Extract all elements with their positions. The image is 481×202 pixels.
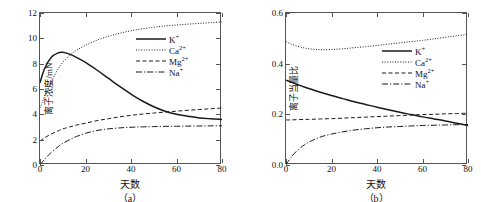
y-tick-mark-right [462,64,466,65]
legend-label-charge: 2+ [425,56,432,63]
x-tick-label: 80 [464,165,473,174]
x-tick-mark [86,159,87,163]
x-tick-mark [222,159,223,163]
x-tick-mark [423,159,424,163]
legend-line-swatch [136,35,166,43]
x-tick-mark [177,159,178,163]
y-tick-label: 4 [33,110,38,119]
x-tick-mark [377,159,378,163]
legend-line-swatch [382,58,412,66]
figure-container: 024681012020406080 K+Ca2+Mg2+Na+ 离子浓度/mN… [0,0,481,202]
chart-panel-a: 024681012020406080 K+Ca2+Mg2+Na+ 离子浓度/mN… [0,0,240,202]
legend-label: Na+ [169,64,183,79]
legend-label-charge: + [176,33,180,40]
legend-line-swatch [382,47,412,55]
plot-lines-a [40,13,222,165]
x-tick-mark-top [423,13,424,17]
y-tick-label: 0.4 [272,59,283,68]
y-tick-mark-right [216,38,220,39]
legend-label-charge: 2+ [428,67,435,74]
y-tick-label: 0 [33,161,38,170]
y-tick-mark-right [462,13,466,14]
x-tick-mark-top [40,13,41,17]
y-tick-mark [40,38,44,39]
series-line-ca2 [40,22,222,108]
legend-a: K+Ca2+Mg2+Na+ [136,33,188,77]
legend-line-swatch [136,68,166,76]
x-tick-mark-top [286,13,287,17]
y-tick-mark [40,140,44,141]
series-line-k [40,52,222,119]
legend-b: K+Ca2+Mg2+Na+ [382,45,434,89]
x-tick-label: 40 [373,165,382,174]
y-tick-label: 0.0 [272,161,283,170]
y-axis-title-b: 离子当量比 [287,57,300,121]
x-tick-label: 60 [418,165,427,174]
x-tick-mark-top [332,13,333,17]
y-tick-mark-right [216,140,220,141]
x-tick-label: 0 [38,165,43,174]
y-tick-label: 6 [33,85,38,94]
x-tick-label: 0 [284,165,289,174]
legend-label: Na+ [415,76,429,91]
x-tick-mark [131,159,132,163]
plot-lines-b [286,13,468,165]
x-tick-mark [332,159,333,163]
y-tick-label: 0.2 [272,110,283,119]
x-tick-label: 60 [172,165,181,174]
x-tick-mark-top [131,13,132,17]
panel-caption-a: （a） [40,190,220,202]
legend-item-na: Na+ [136,66,188,77]
legend-label-charge: + [422,45,426,52]
x-tick-label: 80 [218,165,227,174]
legend-line-swatch [382,80,412,88]
y-tick-label: 10 [28,34,37,43]
y-tick-label: 12 [28,9,37,18]
y-tick-label: 2 [33,135,38,144]
legend-line-swatch [136,57,166,65]
x-tick-mark-top [222,13,223,17]
legend-line-swatch [382,69,412,77]
y-tick-mark-right [216,114,220,115]
x-tick-label: 20 [81,165,90,174]
y-tick-mark-right [216,13,220,14]
x-tick-mark [468,159,469,163]
series-line-mg2 [40,108,222,141]
series-line-mg2 [286,113,468,120]
x-tick-mark-top [86,13,87,17]
x-tick-mark-top [177,13,178,17]
series-line-k [286,80,468,125]
x-axis-title-b: 天数 [286,176,466,191]
x-tick-mark-top [468,13,469,17]
y-axis-title-a: 离子浓度/mN [42,53,55,125]
legend-label-charge: + [180,66,184,73]
y-tick-mark-right [216,89,220,90]
y-tick-label: 0.6 [272,9,283,18]
plot-area-a: 024681012020406080 K+Ca2+Mg2+Na+ 离子浓度/mN… [39,12,221,164]
chart-panel-b: 0.00.20.40.6020406080 K+Ca2+Mg2+Na+ 离子当量… [240,0,481,202]
x-tick-label: 20 [327,165,336,174]
x-axis-title-a: 天数 [40,176,220,191]
x-tick-mark [286,159,287,163]
legend-label-charge: 2+ [179,44,186,51]
legend-line-swatch [136,46,166,54]
y-tick-mark-right [462,114,466,115]
legend-item-na: Na+ [382,78,434,89]
series-line-ca2 [286,34,468,49]
x-tick-mark-top [377,13,378,17]
y-tick-label: 8 [33,59,38,68]
legend-label-charge: + [426,78,430,85]
plot-area-b: 0.00.20.40.6020406080 K+Ca2+Mg2+Na+ 离子当量… [285,12,467,164]
x-tick-mark [40,159,41,163]
legend-label-charge: 2+ [182,55,189,62]
x-tick-label: 40 [127,165,136,174]
y-tick-mark-right [216,64,220,65]
panel-caption-b: （b） [286,190,466,202]
